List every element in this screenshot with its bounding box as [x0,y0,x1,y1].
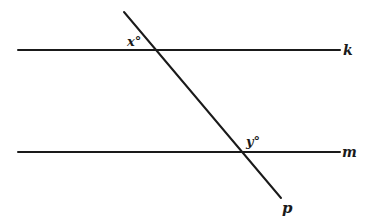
label-p: p [282,199,293,217]
angle-y-label: y° [245,134,260,149]
parallel-lines-diagram: k m p x° y° [0,0,368,224]
label-k: k [343,42,353,58]
transversal-p [124,12,281,198]
label-m: m [342,144,357,160]
angle-x-label: x° [126,34,141,49]
